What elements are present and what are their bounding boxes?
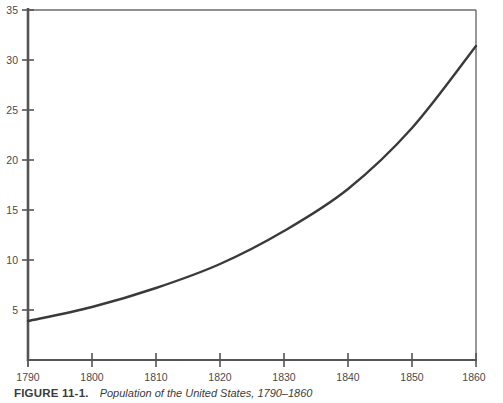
x-tick-label-1810: 1810 [144,371,168,383]
x-tick-label-1850: 1850 [400,371,424,383]
figure-caption: FIGURE 11-1.Population of the United Sta… [14,385,494,400]
caption-title-text: Population of the United States, 1790–18… [100,387,313,399]
y-tick-label-25: 25 [6,104,18,116]
y-tick-label-35: 35 [6,4,18,16]
caption-figure-number: FIGURE 11-1. [14,387,89,399]
x-tick-label-1830: 1830 [272,371,296,383]
y-axis-tick-labels: 35 30 25 20 15 10 5 [6,4,18,316]
x-tick-label-1790: 1790 [16,371,40,383]
y-tick-label-30: 30 [6,54,18,66]
y-tick-label-15: 15 [6,204,18,216]
figure-container: 35 30 25 20 15 10 5 1790 1800 1810 1820 … [0,0,503,403]
x-axis-tick-labels: 1790 1800 1810 1820 1830 1840 1850 1860 [16,371,486,383]
population-line-chart: 35 30 25 20 15 10 5 1790 1800 1810 1820 … [0,0,503,403]
x-tick-label-1800: 1800 [80,371,104,383]
chart-axes [27,8,477,361]
y-tick-label-20: 20 [6,154,18,166]
x-tick-label-1860: 1860 [462,371,486,383]
plot-frame [28,10,476,360]
x-tick-label-1820: 1820 [208,371,232,383]
x-tick-label-1840: 1840 [336,371,360,383]
population-data-line [28,46,476,321]
y-tick-label-5: 5 [12,304,18,316]
y-tick-label-10: 10 [6,254,18,266]
